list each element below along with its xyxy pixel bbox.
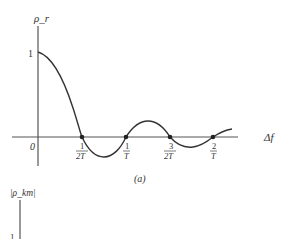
y-tick-label-b: 1 [10, 232, 15, 239]
svg-text:2T: 2T [164, 151, 174, 161]
x-tick-label: 3 2T [164, 141, 176, 161]
y-axis-label: ρ_r [33, 12, 50, 24]
y-axis-label-b: |ρ_km| [10, 188, 36, 198]
svg-text:T: T [211, 151, 217, 161]
correlation-curve [38, 52, 232, 157]
zero-crossing-marker [168, 135, 173, 140]
svg-text:T: T [124, 151, 130, 161]
svg-text:3: 3 [169, 141, 173, 151]
panel-label: (a) [134, 173, 146, 185]
y-tick-label: 1 [28, 48, 33, 59]
figure: ρ_r 1 0 1 2T 1 T 3 2T 2 T Δf (a) |ρ_km| … [0, 0, 290, 239]
origin-label: 0 [30, 141, 35, 152]
svg-text:2T: 2T [76, 151, 86, 161]
x-tick-label: 2 T [210, 141, 217, 161]
zero-crossing-marker [211, 135, 216, 140]
zero-crossing-marker [124, 135, 129, 140]
svg-text:2: 2 [212, 141, 216, 151]
svg-text:1: 1 [80, 141, 84, 151]
x-tick-label: 1 T [123, 141, 130, 161]
x-axis-label: Δf [263, 131, 275, 143]
svg-text:1: 1 [125, 141, 129, 151]
zero-crossing-marker [80, 135, 85, 140]
